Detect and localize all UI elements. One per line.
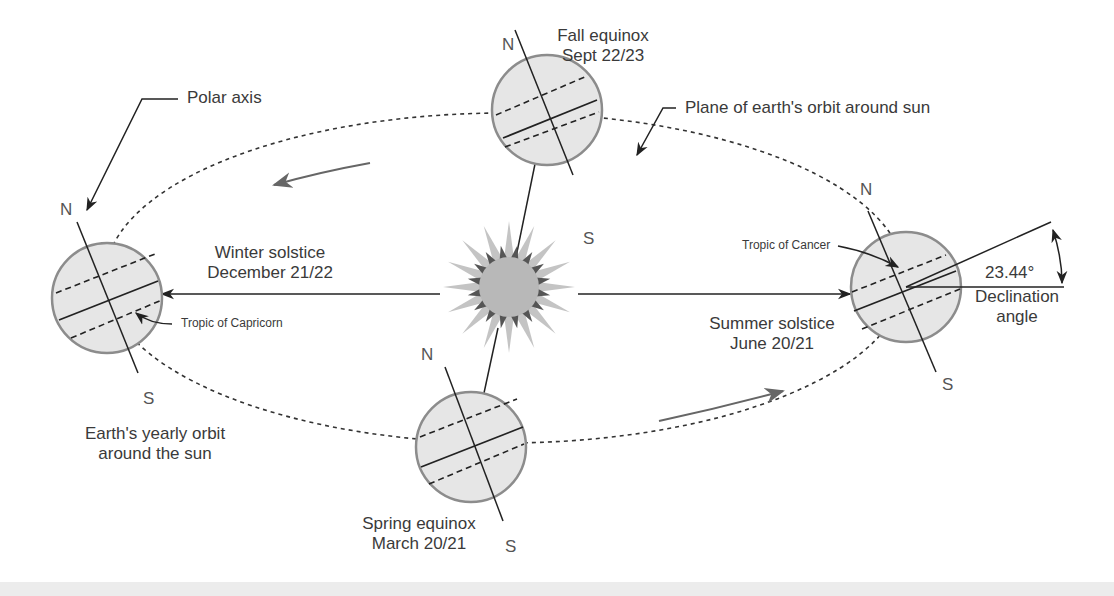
spring-equinox-title: Spring equinox [349,514,489,534]
winter-south-pole-label: S [143,389,154,409]
sun-icon [443,221,575,353]
declination-title: Declination [962,287,1072,307]
winter-solstice-title: Winter solstice [190,243,350,263]
fall-south-pole-label: S [583,229,594,249]
polar-axis-leader [87,99,178,210]
winter-solstice-date: December 21/22 [190,263,350,283]
winter-solstice-label: Winter solstice December 21/22 [190,243,350,282]
summer-solstice-date: June 20/21 [697,334,847,354]
orbit-diagram [0,0,1114,596]
orbit-direction-arrow-bottom [659,391,783,421]
tropic-of-cancer-label: Tropic of Cancer [742,239,830,253]
spring-equinox-label: Spring equinox March 20/21 [349,514,489,553]
yearly-orbit-title: Earth's yearly orbit [65,424,245,444]
summer-solstice-label: Summer solstice June 20/21 [697,314,847,353]
spring-north-pole-label: N [421,345,433,365]
summer-north-pole-label: N [860,180,872,200]
fall-equinox-label: Fall equinox Sept 22/23 [533,26,673,65]
yearly-orbit-label: Earth's yearly orbit around the sun [65,424,245,463]
fall-equinox-title: Fall equinox [533,26,673,46]
winter-north-pole-label: N [60,200,72,220]
polar-axis-label: Polar axis [187,88,262,108]
bottom-band [0,582,1114,596]
declination-subtitle: angle [962,307,1072,327]
yearly-orbit-subtitle: around the sun [65,444,245,464]
summer-south-pole-label: S [942,375,953,395]
fall-north-pole-label: N [502,35,514,55]
declination-arc-arrow [1053,230,1062,283]
plane-of-orbit-leader [637,108,676,155]
sun-to-spring-line [484,328,498,393]
spring-south-pole-label: S [505,537,516,557]
fall-equinox-date: Sept 22/23 [533,46,673,66]
tropic-of-capricorn-label: Tropic of Capricorn [181,317,283,331]
earth-spring [416,367,526,521]
spring-equinox-date: March 20/21 [349,534,489,554]
orbit-direction-arrow-top [274,163,370,185]
declination-angle-label: Declination angle [962,287,1072,326]
declination-value-label: 23.44° [985,263,1034,283]
plane-of-orbit-label: Plane of earth's orbit around sun [685,98,930,118]
summer-solstice-title: Summer solstice [697,314,847,334]
